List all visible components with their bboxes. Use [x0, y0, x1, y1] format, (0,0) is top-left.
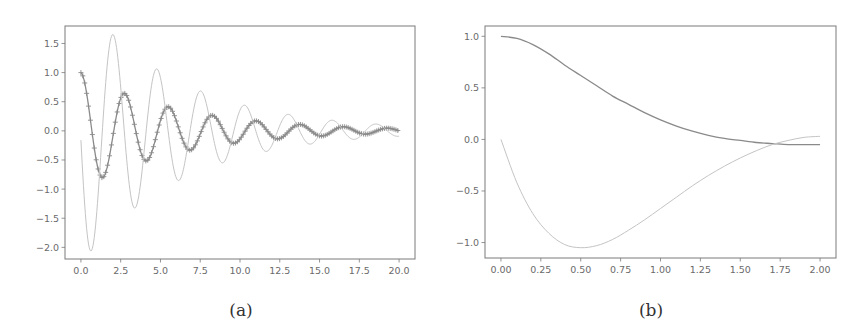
x-tick-label: 2.5	[113, 265, 128, 276]
series-position	[501, 36, 820, 144]
caption-b: (b)	[621, 300, 681, 320]
x-tick-label: 0.0	[73, 265, 88, 276]
x-tick-label: 17.5	[349, 265, 370, 276]
x-tick-label: 20.0	[389, 265, 410, 276]
x-tick-label: 7.5	[193, 265, 208, 276]
y-tick-label: 1.5	[44, 38, 59, 49]
y-tick-label: −0.5	[36, 154, 59, 165]
y-tick-label: 0.0	[44, 125, 59, 136]
x-tick-label: 1.50	[730, 264, 751, 275]
y-tick-label: 0.5	[44, 96, 59, 107]
x-tick-label: 1.00	[650, 264, 671, 275]
x-tick-label: 2.00	[809, 264, 830, 275]
y-tick-label: −1.0	[456, 237, 479, 248]
y-tick-label: −0.5	[456, 185, 479, 196]
series-velocity	[501, 136, 820, 247]
caption-a: (a)	[211, 300, 271, 320]
y-tick-label: 1.0	[44, 67, 59, 78]
x-tick-label: 0.75	[610, 264, 631, 275]
x-tick-label: 10.0	[229, 265, 250, 276]
y-tick-label: −2.0	[36, 242, 59, 253]
series-position	[81, 73, 399, 178]
figure-panel-a: 0.02.55.07.510.012.515.017.520.01.51.00.…	[0, 0, 429, 336]
x-tick-label: 0.25	[530, 264, 551, 275]
x-tick-label: 12.5	[269, 265, 290, 276]
y-tick-label: −1.0	[36, 184, 59, 195]
chart-a: 0.02.55.07.510.012.515.017.520.01.51.00.…	[0, 0, 429, 290]
x-tick-label: 0.50	[570, 264, 591, 275]
x-tick-label: 15.0	[309, 265, 330, 276]
y-tick-label: 0.0	[464, 134, 479, 145]
y-tick-label: 0.5	[464, 82, 479, 93]
y-tick-label: 1.0	[464, 31, 479, 42]
series-velocity	[81, 35, 399, 251]
x-tick-label: 5.0	[153, 265, 168, 276]
x-tick-label: 1.25	[690, 264, 711, 275]
chart-b: 0.000.250.500.751.001.251.501.752.001.00…	[429, 0, 858, 290]
axes-frame	[65, 26, 415, 259]
x-tick-label: 0.00	[490, 264, 511, 275]
x-tick-label: 1.75	[770, 264, 791, 275]
figure-panel-b: 0.000.250.500.751.001.251.501.752.001.00…	[429, 0, 858, 336]
y-tick-label: −1.5	[36, 213, 59, 224]
